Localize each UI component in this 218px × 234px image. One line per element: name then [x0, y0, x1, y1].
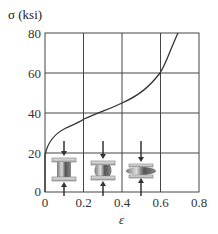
specimen-barreled-icon: [91, 141, 115, 196]
svg-text:60: 60: [28, 66, 41, 81]
stress-strain-chart: σ (ksi) 80 60 40 20 0 0 0.2 0.4 0.6 0.8 …: [0, 0, 218, 234]
svg-text:40: 40: [28, 106, 41, 121]
specimen-flattened-icon: [126, 141, 156, 196]
x-axis-label: ε: [119, 212, 125, 227]
svg-text:0.6: 0.6: [152, 195, 169, 210]
svg-text:80: 80: [28, 26, 41, 41]
svg-text:0.8: 0.8: [191, 195, 207, 210]
y-axis-label: σ (ksi): [8, 7, 42, 22]
specimen-undeformed-icon: [52, 141, 76, 196]
y-tick-labels: 80 60 40 20 0: [28, 26, 41, 199]
x-tick-labels: 0 0.2 0.4 0.6 0.8: [42, 195, 207, 210]
svg-text:0.4: 0.4: [114, 195, 131, 210]
svg-text:0: 0: [35, 184, 42, 199]
svg-text:0: 0: [42, 195, 49, 210]
svg-text:20: 20: [28, 146, 41, 161]
svg-text:0.2: 0.2: [75, 195, 91, 210]
